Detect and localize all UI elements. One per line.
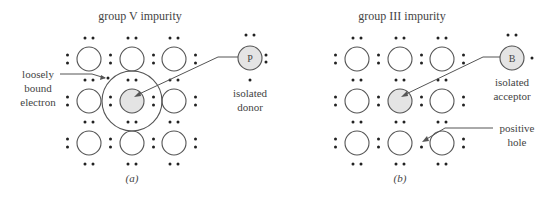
electron-dot [395,163,398,166]
electron-dot [462,62,465,65]
lattice-atom [430,47,454,71]
lattice-atom [345,47,369,71]
electron-dot [377,138,380,141]
lattice-atom [77,47,101,71]
electron-dot [66,146,69,149]
electron-dot [194,96,197,99]
electron-dot [377,146,380,149]
electron-dot [177,79,180,82]
electron-dot [152,54,155,57]
electron-dot [377,62,380,65]
electron-dot [152,104,155,107]
electron-dot [109,54,112,57]
electron-dot [169,163,172,166]
electron-dot [194,62,197,65]
electron-dot [334,54,337,57]
electron-dot [395,121,398,124]
impurity-atom [120,89,144,113]
electron-dot [352,37,355,40]
electron-dot [445,37,448,40]
electron-dot [194,104,197,107]
electron-dot [135,163,138,166]
electron-dot [84,79,87,82]
electron-dot [437,121,440,124]
acceptor-label: acceptor [493,90,531,102]
electron-dot [531,57,534,60]
lattice-atom [77,89,101,113]
electron-dot [127,163,130,166]
electron-dot [194,146,197,149]
electron-dot [507,34,510,37]
electron-dot [109,146,112,149]
electron-dot [66,54,69,57]
electron-arrow [60,74,105,78]
electron-dot [420,104,423,107]
electron-dot [84,121,87,124]
electron-dot [352,121,355,124]
donor-symbol: P [247,53,253,64]
electron-dot [84,37,87,40]
electron-dot [420,96,423,99]
panel-a-group-v: group V impuritylooselyboundelectronPiso… [20,9,267,185]
electron-dot [403,121,406,124]
electron-dot [334,62,337,65]
acceptor-label: isolated [495,76,530,88]
electron-dot [360,121,363,124]
electron-dot [194,138,197,141]
lattice-atom [388,131,412,155]
hole-label: hole [508,136,527,148]
panel-a-title: group V impurity [98,9,182,23]
lattice-atom [77,131,101,155]
electron-dot [135,37,138,40]
electron-dot [152,146,155,149]
electron-dot [109,138,112,141]
electron-dot [437,163,440,166]
electron-dot [360,79,363,82]
electron-label: electron [20,96,56,108]
electron-dot [127,121,130,124]
electron-dot [403,163,406,166]
panel-a-caption: (a) [126,172,139,185]
electron-dot [352,163,355,166]
electron-dot [169,121,172,124]
donor-label: isolated [233,87,268,99]
electron-dot [109,62,112,65]
lattice-atom [120,47,144,71]
electron-dot [84,163,87,166]
electron-dot [92,37,95,40]
electron-dot [245,34,248,37]
electron-dot [437,37,440,40]
electron-dot [66,138,69,141]
electron-dot [109,104,112,107]
electron-dot [66,62,69,65]
electron-dot [249,79,252,82]
electron-dot [334,146,337,149]
electron-dot [420,146,423,149]
electron-dot [377,54,380,57]
electron-dot [377,104,380,107]
electron-dot [445,121,448,124]
electron-dot [360,37,363,40]
panel-b-caption: (b) [394,172,407,185]
electron-dot [92,79,95,82]
electron-dot [462,138,465,141]
lattice-atom [345,131,369,155]
electron-dot [395,79,398,82]
donor-label: donor [237,101,263,113]
electron-dot [445,79,448,82]
electron-dot [109,96,112,99]
electron-dot [462,146,465,149]
electron-dot [177,121,180,124]
electron-dot [127,79,130,82]
electron-dot [462,104,465,107]
electron-dot [152,96,155,99]
electron-dot [395,37,398,40]
electron-dot [377,96,380,99]
electron-dot [92,163,95,166]
acceptor-symbol: B [509,53,516,64]
electron-dot [360,163,363,166]
electron-dot [334,138,337,141]
electron-dot [92,121,95,124]
electron-dot [135,79,138,82]
electron-dot [107,77,110,80]
